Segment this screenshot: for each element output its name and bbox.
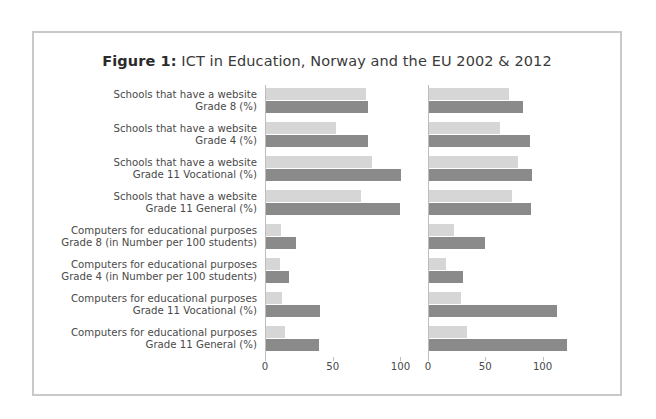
figure-number: Figure 1: [102, 53, 176, 69]
category-label-line2: Grade 8 (in Number per 100 students) [42, 237, 257, 249]
bar-series-2012 [429, 101, 523, 113]
chart-plot-area: Schools that have a websiteGrade 8 (%)Sc… [34, 85, 620, 385]
bar-series-2012 [266, 169, 401, 181]
category-label: Computers for educational purposesGrade … [42, 293, 257, 318]
bar-series-2012 [429, 339, 567, 351]
category-label: Schools that have a websiteGrade 8 (%) [42, 89, 257, 114]
bar-series-2002 [266, 190, 361, 202]
category-label-line1: Computers for educational purposes [71, 225, 257, 236]
bar-series-2012 [266, 237, 296, 249]
axis-tick-label: 0 [262, 361, 268, 372]
category-label-line2: Grade 4 (%) [42, 135, 257, 147]
axis-tick-label: 0 [425, 361, 431, 372]
bar-series-2012 [266, 271, 289, 283]
category-label: Computers for educational purposesGrade … [42, 225, 257, 250]
figure-title-text: ICT in Education, Norway and the EU 2002… [177, 53, 552, 69]
bar-series-2002 [429, 292, 461, 304]
axis-tick-label: 100 [391, 361, 410, 372]
category-axis-labels: Schools that have a websiteGrade 8 (%)Sc… [42, 85, 257, 357]
axis-tick-label: 100 [533, 361, 552, 372]
bar-series-2012 [266, 339, 319, 351]
bar-series-2002 [429, 326, 467, 338]
axis-tick-label: 50 [479, 361, 492, 372]
bar-series-2002 [429, 190, 512, 202]
bar-series-2002 [266, 156, 372, 168]
category-label: Schools that have a websiteGrade 11 Gene… [42, 191, 257, 216]
figure-frame: Figure 1: ICT in Education, Norway and t… [32, 31, 622, 396]
category-label: Schools that have a websiteGrade 11 Voca… [42, 157, 257, 182]
category-label: Computers for educational purposesGrade … [42, 259, 257, 284]
chart-panel-left: 050100 [265, 85, 420, 357]
bar-series-2002 [266, 326, 285, 338]
bar-series-2012 [266, 203, 400, 215]
bar-series-2002 [429, 258, 446, 270]
bar-series-2002 [266, 258, 280, 270]
bar-series-2012 [266, 135, 368, 147]
category-label-line2: Grade 11 Vocational (%) [42, 305, 257, 317]
category-label-line2: Grade 11 General (%) [42, 203, 257, 215]
axis-tick-label: 50 [326, 361, 339, 372]
category-label-line1: Schools that have a website [114, 191, 257, 202]
category-label-line2: Grade 11 General (%) [42, 339, 257, 351]
chart-panel-right: 050100 [428, 85, 583, 357]
category-label-line2: Grade 8 (%) [42, 101, 257, 113]
category-label-line2: Grade 4 (in Number per 100 students) [42, 271, 257, 283]
bar-series-2012 [266, 101, 368, 113]
figure-title: Figure 1: ICT in Education, Norway and t… [34, 53, 620, 69]
bar-series-2002 [429, 122, 500, 134]
category-label-line1: Computers for educational purposes [71, 327, 257, 338]
bar-series-2012 [429, 135, 530, 147]
bar-series-2012 [266, 305, 320, 317]
category-label-line1: Schools that have a website [114, 89, 257, 100]
bar-series-2012 [429, 169, 532, 181]
bar-series-2002 [266, 292, 282, 304]
category-label: Computers for educational purposesGrade … [42, 327, 257, 352]
bar-series-2012 [429, 237, 485, 249]
bar-series-2002 [429, 156, 518, 168]
bar-series-2002 [266, 224, 281, 236]
bar-series-2012 [429, 305, 557, 317]
category-label: Schools that have a websiteGrade 4 (%) [42, 123, 257, 148]
category-label-line2: Grade 11 Vocational (%) [42, 169, 257, 181]
bar-series-2002 [266, 88, 366, 100]
bar-series-2012 [429, 203, 531, 215]
bar-series-2002 [266, 122, 336, 134]
category-label-line1: Computers for educational purposes [71, 293, 257, 304]
category-label-line1: Schools that have a website [114, 123, 257, 134]
bar-series-2012 [429, 271, 463, 283]
bar-series-2002 [429, 224, 454, 236]
category-label-line1: Computers for educational purposes [71, 259, 257, 270]
category-label-line1: Schools that have a website [114, 157, 257, 168]
bar-series-2002 [429, 88, 509, 100]
